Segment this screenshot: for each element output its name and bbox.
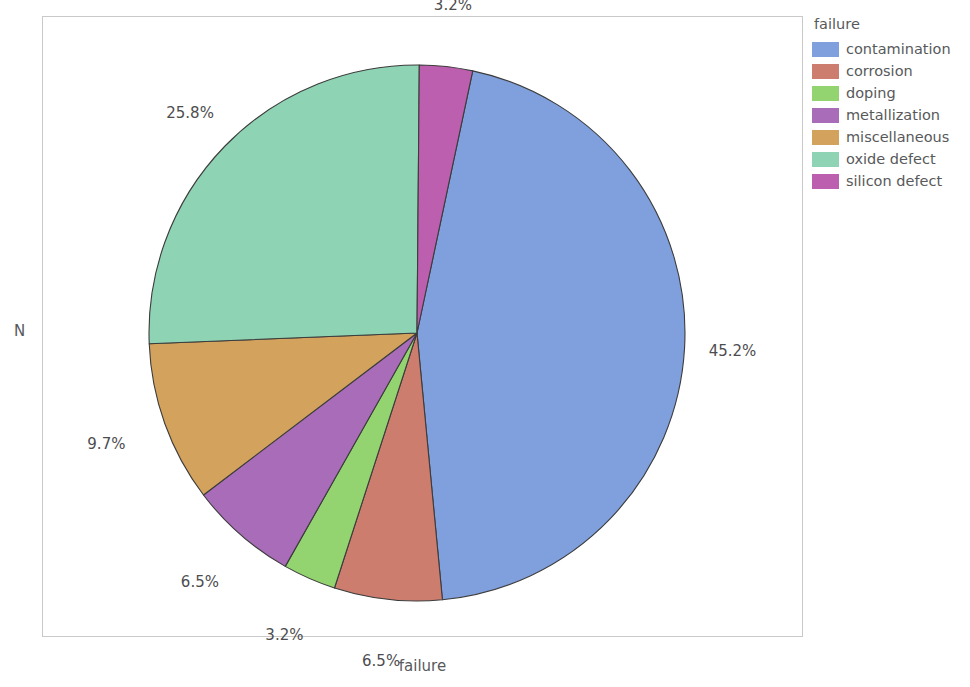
legend-item[interactable]: corrosion [812, 61, 964, 82]
pie-slice-percent-label: 3.2% [265, 626, 303, 644]
legend-item-label: doping [846, 86, 896, 101]
pie-chart-figure: N failure 45.2%6.5%3.2%6.5%9.7%25.8%3.2%… [0, 0, 970, 687]
pie-slice-percent-label: 6.5% [181, 573, 219, 591]
plot-area-frame [42, 16, 803, 637]
legend-item-label: contamination [846, 42, 951, 57]
legend-item[interactable]: metallization [812, 105, 964, 126]
legend-item-label: miscellaneous [846, 130, 949, 145]
legend-color-swatch [812, 64, 839, 79]
legend-item[interactable]: miscellaneous [812, 127, 964, 148]
x-axis-label: failure [0, 657, 845, 675]
legend-color-swatch [812, 152, 839, 167]
legend: failure contaminationcorrosiondopingmeta… [812, 16, 964, 193]
legend-item[interactable]: doping [812, 83, 964, 104]
legend-item-label: corrosion [846, 64, 913, 79]
legend-color-swatch [812, 86, 839, 101]
legend-color-swatch [812, 130, 839, 145]
legend-title: failure [812, 16, 964, 32]
legend-item[interactable]: oxide defect [812, 149, 964, 170]
pie-slice-percent-label: 3.2% [434, 0, 472, 14]
legend-items: contaminationcorrosiondopingmetallizatio… [812, 39, 964, 192]
pie-slice-percent-label: 6.5% [362, 652, 400, 670]
legend-item-label: oxide defect [846, 152, 936, 167]
legend-item-label: metallization [846, 108, 940, 123]
legend-color-swatch [812, 108, 839, 123]
pie-slice-percent-label: 9.7% [87, 435, 125, 453]
pie-slice-percent-label: 25.8% [166, 104, 214, 122]
legend-color-swatch [812, 42, 839, 57]
legend-color-swatch [812, 174, 839, 189]
legend-item[interactable]: contamination [812, 39, 964, 60]
pie-slice-percent-label: 45.2% [709, 342, 757, 360]
legend-item[interactable]: silicon defect [812, 171, 964, 192]
y-axis-label: N [14, 322, 25, 340]
legend-item-label: silicon defect [846, 174, 942, 189]
